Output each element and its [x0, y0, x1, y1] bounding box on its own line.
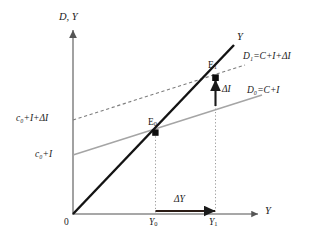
demand-line-d1: [73, 65, 245, 120]
origin-label: 0: [64, 218, 69, 228]
delta-i-label: ΔI: [222, 85, 231, 95]
equilibrium-e0-subscript: 0: [154, 120, 157, 127]
equilibrium-e0-label: E0: [148, 118, 157, 128]
equilibrium-point-e1: [212, 74, 219, 81]
equilibrium-e1-label: E1: [208, 61, 217, 71]
equilibrium-e1-subscript: 1: [214, 63, 217, 70]
demand-1-label: D₁=C+I+ΔI: [243, 52, 291, 62]
demand-line-d0: [73, 95, 262, 155]
equilibrium-point-e0: [152, 129, 158, 135]
line-45-label: Y: [237, 32, 243, 43]
figure-canvas: D, Y Y 0 Y D₁=C+I+ΔI D₀=C+I c₀+I+ΔI c₀+I…: [0, 0, 323, 250]
delta-y-label: ΔY: [174, 195, 185, 205]
y-axis-label: D, Y: [59, 12, 78, 23]
demand-0-label: D₀=C+I: [247, 86, 280, 96]
intercept-0-label: c₀+I: [35, 150, 52, 160]
keynesian-cross-svg: [0, 0, 323, 250]
x-tick-y0-subscript: 0: [154, 220, 157, 227]
x-tick-label-y0: Y0: [149, 218, 158, 228]
intercept-1-label: c₀+I+ΔI: [16, 114, 48, 124]
x-tick-label-y1: Y1: [209, 218, 218, 228]
x-tick-y1-subscript: 1: [214, 220, 217, 227]
x-axis-label: Y: [265, 206, 271, 217]
